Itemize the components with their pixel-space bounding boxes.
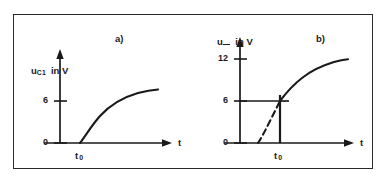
panel-a-t0-var: t [75,150,78,161]
panel-a-tag: a) [115,34,123,44]
panel-a-y-subscript: C1 [37,69,46,76]
panel-a-y-axis [56,49,63,143]
panel-b-ytick-12: 12 [208,54,228,63]
figure-root: a) uC1in V 6 0 t t0 [0,0,387,185]
panel-a-curve [80,90,158,144]
panel-b-tag: b) [316,34,325,44]
panel-b-curve-solid [280,59,348,101]
panel-b-t0-label: t0 [274,151,282,161]
panel-b-x-axis-label: t [360,138,363,148]
panel-a-y-axis-title: uC1in V [31,66,68,77]
panel-a-ytick-6: 6 [34,96,48,105]
panel-b-ytick-6: 6 [208,96,228,105]
panel-b-t0-sub: 0 [278,154,282,161]
panel-a-t0-sub: 0 [79,154,83,161]
panel-a-x-axis-label: t [178,138,181,148]
panel-a: a) uC1in V 6 0 t t0 [14,15,194,168]
panel-b-ytick-0: 0 [208,138,228,147]
figure-frame: a) uC1in V 6 0 t t0 [13,14,373,169]
panel-b: b) uin V 12 6 0 t t0 [194,15,374,168]
panel-b-y-quantity: u [217,36,223,47]
panel-b-t0-var: t [274,150,277,161]
panel-b-y-subscript [223,44,230,45]
panel-a-t0-label: t0 [75,151,83,161]
panel-b-y-units: in V [235,36,252,47]
panel-a-y-units: in V [51,65,68,76]
panel-b-y-axis [236,37,243,143]
panel-a-ytick-0: 0 [34,138,48,147]
panel-b-y-axis-title: uin V [217,37,253,47]
panel-b-curve-dashed [258,102,280,143]
